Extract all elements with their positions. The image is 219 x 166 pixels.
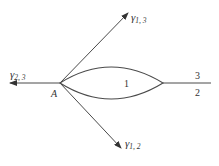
label-gamma-1-3: γ1, 3 — [131, 11, 147, 25]
label-gamma-2-3: γ2, 3 — [10, 68, 26, 82]
region-2-label: 2 — [195, 87, 200, 98]
vector-gamma-1-3-arrow — [60, 13, 128, 83]
label-gamma-1-2: γ1, 2 — [125, 137, 141, 151]
point-a-label: A — [50, 88, 58, 99]
region-1-label: 1 — [124, 78, 129, 89]
lens-region-outline — [60, 67, 163, 99]
diagram-canvas: γ2, 3 γ1, 3 γ1, 2 A 1 3 2 — [0, 0, 219, 166]
region-3-label: 3 — [195, 70, 200, 81]
vector-gamma-1-2-arrow — [60, 83, 121, 148]
